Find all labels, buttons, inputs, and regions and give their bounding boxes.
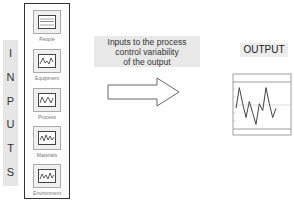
- factor-panel: [33, 164, 61, 188]
- inputs-letter: I: [9, 48, 12, 59]
- monitor-wave-icon: [38, 131, 56, 145]
- factor-panel: [33, 10, 61, 34]
- caption-line: Inputs to the process: [108, 37, 187, 47]
- factor-panel: [33, 126, 61, 150]
- caption-line: control variability: [108, 47, 187, 57]
- factor-materials: Materials: [30, 126, 64, 158]
- inputs-letter: T: [7, 143, 14, 154]
- monitor-wave-icon: [38, 93, 56, 107]
- factor-equipment: Equipment: [30, 49, 64, 81]
- right-arrow-icon: [107, 77, 181, 107]
- monitor-wave-icon: [38, 169, 56, 183]
- output-control-chart: [232, 73, 292, 137]
- inputs-letter: N: [7, 72, 15, 83]
- factor-label: Equipment: [30, 75, 64, 81]
- inputs-vertical-label: I N P U T S: [3, 40, 18, 186]
- output-label: OUTPUT: [240, 43, 288, 57]
- inputs-letter: S: [7, 167, 14, 178]
- inputs-letter: P: [7, 96, 14, 107]
- inputs-letter: U: [7, 119, 15, 130]
- monitor-wave-icon: [38, 54, 56, 68]
- factor-environment: Environment: [30, 164, 64, 196]
- factor-people: People: [30, 10, 64, 42]
- factor-panel: [33, 49, 61, 73]
- factor-panel: [33, 88, 61, 112]
- inputs-column: People Equipment Process: [24, 3, 70, 199]
- caption-box: Inputs to the process control variabilit…: [94, 36, 200, 67]
- caption-line: of the output: [108, 57, 187, 67]
- factor-process: Process: [30, 88, 64, 120]
- factor-label: People: [30, 36, 64, 42]
- monitor-bars-icon: [38, 15, 56, 29]
- factor-label: Environment: [30, 190, 64, 196]
- factor-label: Process: [30, 114, 64, 120]
- factor-label: Materials: [30, 152, 64, 158]
